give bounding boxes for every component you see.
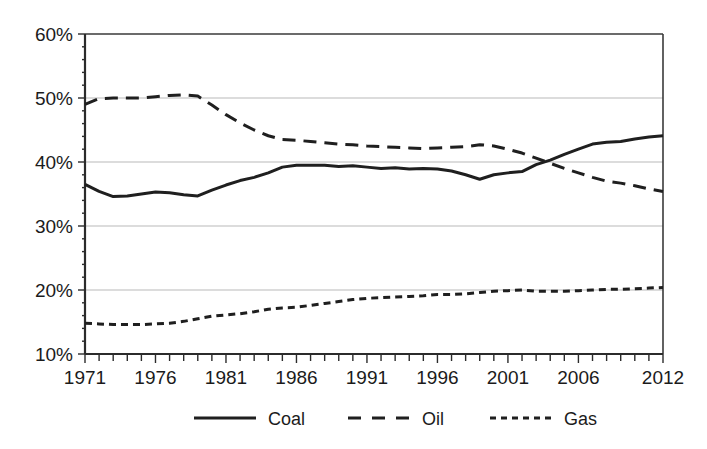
- x-tick-label-2001: 2001: [487, 367, 529, 388]
- legend-label-oil: Oil: [422, 409, 444, 429]
- chart-container: 60%50%40%30%20%10% 197119761981198619911…: [0, 0, 707, 449]
- y-tick-label-30: 30%: [35, 216, 73, 237]
- x-tick-label-1981: 1981: [205, 367, 247, 388]
- y-tick-label-10: 10%: [35, 344, 73, 365]
- y-tick-label-50: 50%: [35, 88, 73, 109]
- x-tick-label-1986: 1986: [275, 367, 317, 388]
- x-tick-label-1976: 1976: [134, 367, 176, 388]
- x-tick-label-1971: 1971: [64, 367, 106, 388]
- x-tick-label-1996: 1996: [416, 367, 458, 388]
- y-tick-label-40: 40%: [35, 152, 73, 173]
- x-tick-label-2006: 2006: [557, 367, 599, 388]
- legend-label-gas: Gas: [564, 409, 597, 429]
- x-tick-label-2012: 2012: [642, 367, 684, 388]
- y-tick-label-60: 60%: [35, 24, 73, 45]
- x-axis-tick-labels: 197119761981198619911996200120062012: [64, 367, 684, 388]
- legend-label-coal: Coal: [268, 409, 305, 429]
- x-tick-label-1991: 1991: [346, 367, 388, 388]
- y-tick-label-20: 20%: [35, 280, 73, 301]
- line-chart: 60%50%40%30%20%10% 197119761981198619911…: [0, 0, 707, 449]
